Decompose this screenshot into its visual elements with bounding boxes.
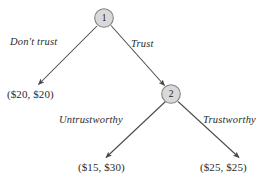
edge-label-trustworthy: Trustworthy xyxy=(203,114,256,125)
node-label-1: 1 xyxy=(94,8,114,28)
edge-trust xyxy=(111,26,165,86)
edge-label-trust: Trust xyxy=(131,38,154,49)
payoff-untrustworthy: ($15, $30) xyxy=(78,161,125,173)
payoff-trustworthy: ($25, $25) xyxy=(200,161,247,173)
edge-label-untrustworthy: Untrustworthy xyxy=(59,114,123,125)
payoff-dont-trust: ($20, $20) xyxy=(7,88,54,100)
edge-untrustworthy xyxy=(106,102,166,158)
node-label-2: 2 xyxy=(161,84,181,104)
edge-trustworthy xyxy=(178,102,239,158)
edge-label-dont-trust: Don't trust xyxy=(10,36,57,47)
game-tree-diagram: 1 2 Don't trust Trust Untrustworthy Trus… xyxy=(0,0,276,188)
edge-dont-trust xyxy=(39,26,98,85)
